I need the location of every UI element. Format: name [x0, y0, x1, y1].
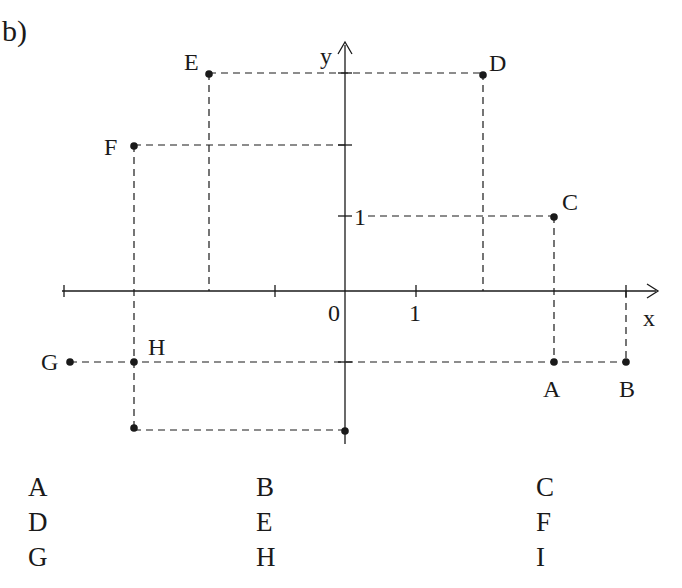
x-axis-label: x — [643, 305, 655, 331]
point-e — [205, 70, 213, 78]
answer-cell: F — [536, 507, 551, 538]
point-g — [66, 358, 74, 366]
point-a — [550, 358, 558, 366]
coordinate-plane: y x 0 1 1 A B C D E F G H — [0, 0, 682, 470]
answer-cell: B — [256, 472, 274, 503]
point-d — [479, 71, 487, 79]
point-unlabeled-1 — [130, 424, 138, 432]
answer-grid-row: A B C — [0, 472, 682, 507]
point-b — [622, 358, 630, 366]
point-f — [130, 142, 138, 150]
x-unit-label: 1 — [409, 300, 421, 326]
point-a-label: A — [543, 376, 561, 402]
origin-label: 0 — [328, 300, 340, 326]
point-h-label: H — [148, 334, 165, 360]
answer-grid-row: G H I — [0, 542, 682, 577]
point-h — [130, 358, 138, 366]
point-e-label: E — [184, 49, 199, 75]
y-axis-label: y — [320, 43, 332, 69]
point-unlabeled-2 — [341, 427, 349, 435]
answer-cell: G — [28, 542, 48, 573]
point-c-label: C — [562, 189, 578, 215]
answer-grid-row: D E F — [0, 507, 682, 542]
answer-grid: A B C D E F G H I — [0, 472, 682, 577]
point-g-label: G — [41, 349, 58, 375]
answer-cell: A — [28, 472, 48, 503]
point-b-label: B — [619, 376, 635, 402]
answer-cell: D — [28, 507, 48, 538]
y-unit-label: 1 — [354, 204, 366, 230]
point-c — [550, 213, 558, 221]
answer-cell: I — [536, 542, 545, 573]
answer-cell: H — [256, 542, 276, 573]
point-f-label: F — [104, 134, 117, 160]
point-d-label: D — [489, 50, 506, 76]
answer-cell: E — [256, 507, 273, 538]
answer-cell: C — [536, 472, 554, 503]
